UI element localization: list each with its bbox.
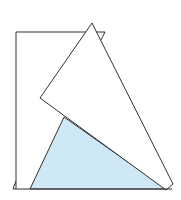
folded-paper-diagram [0,0,181,200]
rectangle-corner-tick [101,32,105,40]
